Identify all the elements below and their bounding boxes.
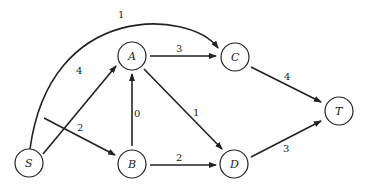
node-s: S (15, 149, 43, 177)
edge-b-a-weight: 0 (134, 108, 140, 119)
node-d: D (220, 150, 248, 178)
edge-s-c-weight: 1 (118, 9, 124, 20)
edge-a-d (144, 69, 222, 149)
edge-s-a-weight: 4 (76, 65, 82, 76)
node-b-label: B (127, 158, 136, 171)
network-graph: 1 4 2 3 1 0 2 4 3 S A C B D T (0, 0, 369, 194)
edge-s-c (30, 24, 218, 149)
node-s-label: S (25, 157, 33, 170)
edge-c-t-weight: 4 (284, 71, 290, 82)
node-c-label: C (231, 51, 240, 64)
node-d-label: D (229, 158, 239, 171)
node-t: T (325, 97, 353, 125)
edge-s-b-weight: 2 (77, 122, 83, 133)
edge-a-c-weight: 3 (176, 43, 182, 54)
edge-a-d-weight: 1 (193, 107, 199, 118)
node-c: C (221, 43, 249, 71)
node-a-label: A (127, 50, 136, 63)
node-a: A (118, 42, 146, 70)
edge-b-d-weight: 2 (176, 152, 182, 163)
edge-d-t-weight: 3 (283, 143, 289, 154)
node-b: B (118, 150, 146, 178)
